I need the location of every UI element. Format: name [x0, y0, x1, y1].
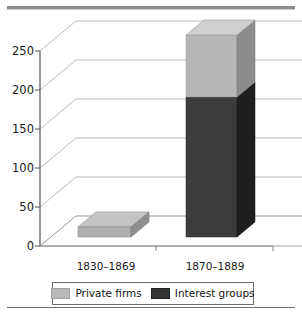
y-tick-150: 150: [0, 124, 34, 134]
segment-private-firms: [186, 20, 255, 97]
legend-label-private-firms: Private firms: [75, 288, 141, 299]
dark-gray-swatch: [151, 288, 170, 299]
legend-label-interest-groups: Interest groups: [175, 288, 255, 299]
y-axis: [35, 51, 40, 246]
y-tick-100: 100: [0, 163, 34, 173]
y-tick-0: 0: [0, 241, 34, 251]
x-axis-labels: 1830–1869 1870–1889: [0, 256, 302, 278]
legend-item-interest-groups[interactable]: Interest groups: [151, 288, 255, 299]
plot-area: 250 200 150 100 50 0: [0, 10, 302, 260]
segment-interest-groups: [186, 82, 255, 237]
x-label-1830-1869: 1830–1869: [58, 260, 154, 272]
y-tick-50: 50: [0, 202, 34, 212]
legend-item-private-firms[interactable]: Private firms: [51, 288, 141, 299]
stacked-3d-bar-chart: 250 200 150 100 50 0 1830–1869 1870–1889…: [0, 10, 302, 300]
bottom-rule: [7, 307, 295, 308]
y-tick-250: 250: [0, 46, 34, 56]
x-axis: [40, 246, 273, 251]
y-tick-200: 200: [0, 85, 34, 95]
bar-1870-1889[interactable]: [186, 20, 255, 237]
light-gray-swatch: [51, 288, 70, 299]
chart-legend: Private firms Interest groups: [52, 282, 254, 305]
y-axis-labels: 250 200 150 100 50 0: [0, 10, 34, 260]
plot-svg: [0, 10, 302, 260]
x-label-1870-1889: 1870–1889: [167, 260, 263, 272]
gridlines: [40, 21, 302, 207]
